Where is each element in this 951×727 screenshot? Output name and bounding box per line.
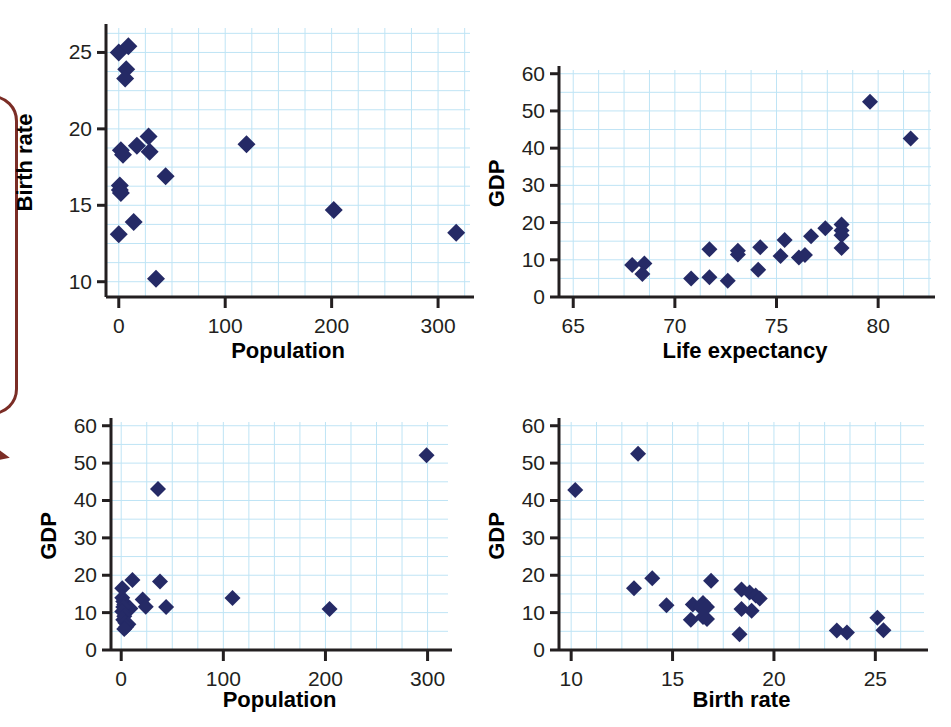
- y-tick-label: 20: [522, 563, 545, 586]
- data-point-marker: [744, 603, 760, 619]
- data-point-marker: [447, 224, 465, 242]
- scatter-plot-pop-vs-gdp: 01020304050600100200300PopulationGDP: [0, 380, 476, 727]
- data-point-marker: [773, 248, 789, 264]
- x-tick-label: 75: [765, 314, 788, 337]
- x-axis-title: Birth rate: [693, 687, 791, 712]
- y-tick-label: 40: [522, 136, 545, 159]
- y-tick-label: 0: [533, 285, 545, 308]
- y-axis-title: GDP: [36, 512, 61, 560]
- data-point-marker: [683, 270, 699, 286]
- scatter-panel-birth-rate-gdp: 010203040506010152025Birth rateGDP: [476, 380, 951, 727]
- data-point-marker: [322, 601, 338, 617]
- data-point-marker: [862, 94, 878, 110]
- x-tick-label: 300: [421, 314, 456, 337]
- scatter-plot-life-vs-gdp: 010203040506065707580Life expectancyGDP: [476, 0, 951, 380]
- data-point-marker: [325, 201, 343, 219]
- y-tick-label: 15: [69, 193, 92, 216]
- scatter-plot-pop-vs-birth: 101520250100200300PopulationBirth rate: [0, 0, 476, 380]
- y-axis-title: GDP: [484, 512, 509, 560]
- y-tick-label: 20: [522, 211, 545, 234]
- axes: [111, 418, 452, 650]
- y-tick-label: 60: [522, 414, 545, 437]
- data-point-marker: [125, 213, 143, 231]
- axes: [106, 24, 474, 297]
- scatter-plot-birth-vs-gdp: 010203040506010152025Birth rateGDP: [476, 380, 951, 727]
- data-point-marker: [419, 447, 435, 463]
- y-tick-label: 30: [522, 173, 545, 196]
- x-tick-label: 300: [410, 667, 445, 690]
- x-tick-label: 65: [562, 314, 585, 337]
- x-tick-label: 10: [559, 667, 582, 690]
- x-tick-label: 25: [864, 667, 887, 690]
- x-tick-label: 0: [113, 314, 125, 337]
- data-point-marker: [567, 482, 583, 498]
- y-tick-label: 20: [74, 563, 97, 586]
- data-point-marker: [731, 626, 747, 642]
- scatter-panel-life-expectancy-gdp: 010203040506065707580Life expectancyGDP: [476, 0, 951, 380]
- y-tick-label: 10: [522, 601, 545, 624]
- x-axis-title: Population: [231, 338, 345, 363]
- x-tick-label: 0: [115, 667, 127, 690]
- data-point-marker: [225, 590, 241, 606]
- y-tick-label: 20: [69, 117, 92, 140]
- x-tick-label: 200: [314, 314, 349, 337]
- y-axis-title: GDP: [484, 160, 509, 208]
- y-tick-label: 40: [74, 488, 97, 511]
- y-tick-label: 10: [522, 248, 545, 271]
- y-tick-label: 60: [74, 414, 97, 437]
- y-tick-label: 0: [85, 638, 97, 661]
- data-point-marker: [110, 225, 128, 243]
- data-point-marker: [750, 262, 766, 278]
- x-axis-title: Population: [223, 687, 337, 712]
- x-tick-label: 100: [208, 314, 243, 337]
- data-point-marker: [803, 228, 819, 244]
- y-tick-label: 40: [522, 488, 545, 511]
- scatter-panel-population-gdp: 01020304050600100200300PopulationGDP: [0, 380, 476, 727]
- data-point-marker: [903, 130, 919, 146]
- data-point-marker: [152, 574, 168, 590]
- y-tick-label: 0: [533, 638, 545, 661]
- y-tick-label: 30: [74, 526, 97, 549]
- y-axis-title: Birth rate: [12, 114, 37, 212]
- data-point-marker: [701, 269, 717, 285]
- scatter-panel-population-birth-rate: 101520250100200300PopulationBirth rate: [0, 0, 476, 380]
- data-point-marker: [720, 273, 736, 289]
- data-point-marker: [147, 270, 165, 288]
- y-tick-label: 30: [522, 526, 545, 549]
- x-tick-label: 15: [661, 667, 684, 690]
- y-tick-label: 50: [74, 451, 97, 474]
- y-tick-label: 50: [522, 451, 545, 474]
- y-tick-label: 50: [522, 99, 545, 122]
- data-point-marker: [834, 240, 850, 256]
- gridlines: [106, 28, 470, 297]
- data-point-marker: [683, 612, 699, 628]
- data-point-marker: [630, 446, 646, 462]
- x-tick-label: 70: [663, 314, 686, 337]
- y-tick-label: 25: [69, 40, 92, 63]
- gridlines: [111, 422, 448, 650]
- y-tick-label: 10: [74, 601, 97, 624]
- data-point-marker: [644, 570, 660, 586]
- data-point-marker: [150, 481, 166, 497]
- data-point-marker: [701, 241, 717, 257]
- data-point-marker: [839, 624, 855, 640]
- data-point-marker: [777, 232, 793, 248]
- x-axis-title: Life expectancy: [662, 338, 828, 363]
- data-point-marker: [237, 135, 255, 153]
- y-tick-label: 60: [522, 62, 545, 85]
- x-tick-label: 80: [866, 314, 889, 337]
- y-tick-label: 10: [69, 270, 92, 293]
